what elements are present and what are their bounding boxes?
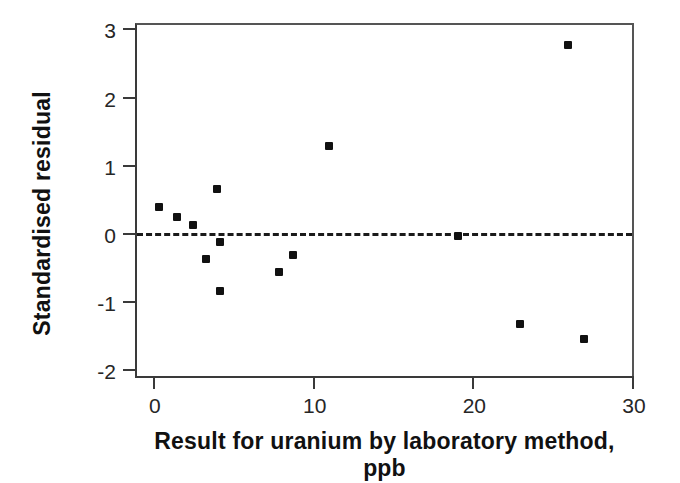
data-point [173,213,181,221]
x-tick: 0 [153,376,155,389]
y-tick: 2 [123,97,137,99]
y-tick-label: -2 [97,361,116,382]
y-axis-title: Standardised residual [29,64,56,364]
zero-reference-line [137,233,632,236]
x-tick-label: 10 [303,395,326,416]
x-tick-label: 30 [622,395,645,416]
data-point [454,232,462,240]
y-tick-label: 0 [104,224,116,245]
data-point [202,255,210,263]
plot-area: -2-10123 0102030 [135,23,634,378]
y-tick: 1 [123,165,137,167]
y-tick: 3 [123,28,137,30]
y-tick-label: 2 [104,88,116,109]
data-point [155,203,163,211]
residual-scatter-figure: -2-10123 0102030 Result for uranium by l… [0,0,680,483]
data-point [325,142,333,150]
y-tick-label: 3 [104,20,116,41]
data-point [216,287,224,295]
x-tick-label: 20 [463,395,486,416]
x-axis-title: Result for uranium by laboratory method,… [135,428,634,482]
y-tick-label: -1 [97,293,116,314]
data-point [213,185,221,193]
data-point [564,41,572,49]
y-tick: 0 [123,233,137,235]
x-tick-label: 0 [149,395,161,416]
x-tick: 30 [632,376,634,389]
y-tick: -1 [123,301,137,303]
data-point [580,335,588,343]
data-point [189,221,197,229]
x-tick: 20 [472,376,474,389]
data-point [516,320,524,328]
data-point [275,268,283,276]
x-tick: 10 [313,376,315,389]
data-point [289,251,297,259]
data-point [216,238,224,246]
y-tick: -2 [123,369,137,371]
y-tick-label: 1 [104,156,116,177]
